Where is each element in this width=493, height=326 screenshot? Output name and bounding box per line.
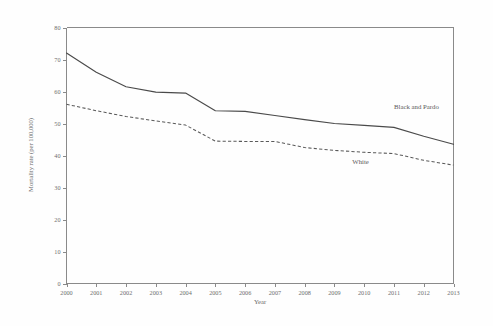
x-tick-label: 2006 xyxy=(239,289,251,296)
x-tick-label: 2002 xyxy=(120,289,132,296)
plot-frame xyxy=(67,28,454,284)
x-tick-label: 2000 xyxy=(60,289,72,296)
x-tick-label: 2005 xyxy=(209,289,221,296)
mortality-rate-line-chart: 01020304050607080 2000200120022003200420… xyxy=(0,0,493,326)
chart-figure: 01020304050607080 2000200120022003200420… xyxy=(0,0,493,326)
series-annotation-white: White xyxy=(352,158,369,165)
x-tick-label: 2008 xyxy=(298,289,310,296)
x-tick-label: 2004 xyxy=(179,289,191,296)
y-tick-label: 10 xyxy=(54,248,60,255)
x-tick-label: 2013 xyxy=(447,289,459,296)
y-tick-label: 80 xyxy=(54,24,60,31)
x-tick-label: 2010 xyxy=(358,289,370,296)
x-tick-label: 2007 xyxy=(269,289,281,296)
y-tick-label: 20 xyxy=(54,216,60,223)
x-tick-label: 2009 xyxy=(328,289,340,296)
y-tick-label: 50 xyxy=(54,120,60,127)
x-axis: 2000200120022003200420052006200720082009… xyxy=(60,284,459,297)
x-tick-label: 2012 xyxy=(418,289,430,296)
series-annotation-black-and-pardo: Black and Pardo xyxy=(394,103,440,110)
y-tick-label: 30 xyxy=(54,184,60,191)
y-axis-title: Mortality rate (per 100,000) xyxy=(27,118,35,192)
y-tick-label: 40 xyxy=(54,152,60,159)
y-axis: 01020304050607080 xyxy=(54,24,66,287)
x-axis-title: Year xyxy=(254,298,267,305)
y-tick-label: 70 xyxy=(54,56,60,63)
x-tick-label: 2001 xyxy=(90,289,102,296)
y-tick-label: 60 xyxy=(54,88,60,95)
series-line-black-and-pardo xyxy=(67,53,454,144)
series-annotations: Black and PardoWhite xyxy=(352,103,439,164)
x-tick-label: 2011 xyxy=(388,289,400,296)
x-tick-label: 2003 xyxy=(150,289,162,296)
y-tick-label: 0 xyxy=(57,280,60,287)
